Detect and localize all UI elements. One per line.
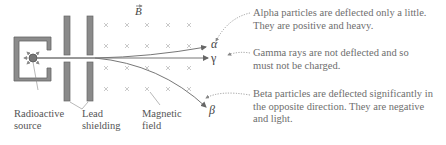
alpha-label: α [211, 37, 217, 52]
beta-note: Beta particles are deflected significant… [253, 88, 433, 126]
beta-label: β [209, 103, 215, 118]
beta-ray [95, 58, 206, 107]
gamma-label: γ [211, 51, 216, 66]
field-label: Magnetic field [142, 108, 182, 132]
radioactive-source [29, 54, 37, 62]
source-label: Radioactive source [14, 108, 64, 132]
label-leaders [33, 62, 160, 109]
field-symbol: B [135, 5, 142, 17]
ray-paths [37, 47, 208, 107]
alpha-ray [37, 47, 206, 58]
alpha-note: Alpha particles are deflected only a lit… [253, 7, 426, 32]
gamma-note: Gamma rays are not deflected and so must… [253, 47, 409, 72]
shielding-label: Lead shielding [82, 108, 121, 132]
